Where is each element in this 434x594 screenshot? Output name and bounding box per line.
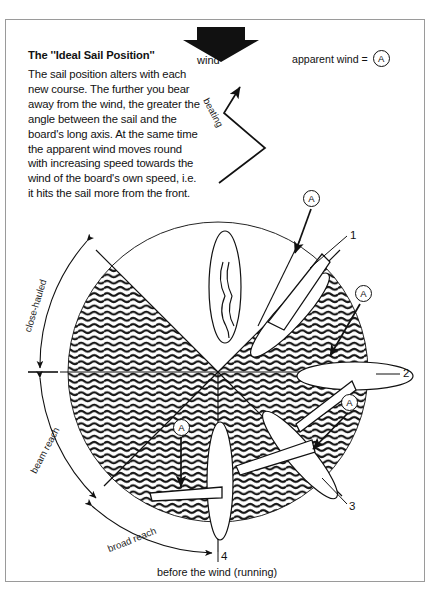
apparent-wind-arrow-1: [295, 209, 311, 253]
apparent-wind-marker-4: A: [173, 419, 190, 436]
apparent-wind-marker-1: A: [303, 190, 320, 207]
board-head-to-wind: [209, 231, 241, 343]
figure-body-text: The sail position alters with each new c…: [28, 67, 200, 201]
board-hull-4: [207, 422, 233, 540]
position-number-2: 2: [403, 367, 409, 379]
position-number-4: 4: [221, 550, 227, 562]
position-number-3: 3: [349, 500, 355, 512]
figure-page: The ''Ideal Sail Position'' The sail pos…: [0, 0, 434, 594]
beating-track: [219, 87, 265, 183]
wind-label: wind: [197, 53, 220, 67]
apparent-wind-legend-text: apparent wind =: [292, 53, 368, 65]
apparent-wind-legend: apparent wind = A: [292, 50, 390, 67]
figure-title: The ''Ideal Sail Position'': [28, 48, 218, 62]
apparent-wind-marker-2: A: [355, 285, 372, 302]
apparent-wind-symbol-icon: A: [373, 50, 390, 67]
board-hull-2: [297, 362, 413, 390]
apparent-wind-marker-3: A: [341, 394, 358, 411]
position-number-1: 1: [350, 229, 356, 241]
figure-caption: before the wind (running): [0, 566, 434, 580]
